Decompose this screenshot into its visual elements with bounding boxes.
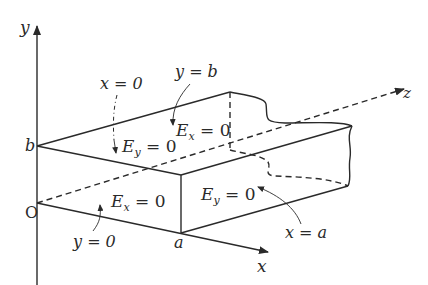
field-top-Ey: Ey = 0: [121, 136, 177, 159]
top-back-wavy-edge: [230, 92, 352, 126]
wall-label-xa: x = a: [285, 223, 327, 242]
wall-label-x0: x = 0: [100, 74, 143, 93]
waveguide-diagram: y z x O b a x = 0 y = b Ey = 0 Ex = 0 Ex…: [0, 0, 428, 285]
wall-label-yb: y = b: [174, 62, 218, 81]
dimension-a-label: a: [174, 233, 184, 252]
pointer-y0: [93, 205, 100, 231]
right-wavy-edge: [348, 126, 352, 186]
field-right-Ey: Ey = 0: [200, 184, 256, 207]
field-top-Ex: Ex = 0: [175, 120, 231, 143]
wall-label-y0: y = 0: [72, 232, 116, 251]
dimension-b-label: b: [25, 136, 35, 155]
x-axis-label: x: [257, 256, 267, 276]
y-axis-label: y: [19, 17, 30, 37]
pointer-x0-tip: [114, 140, 116, 153]
field-front-Ex: Ex = 0: [110, 191, 166, 214]
pointer-x0: [113, 95, 117, 140]
origin-label: O: [25, 203, 38, 222]
z-axis-label: z: [402, 84, 411, 102]
